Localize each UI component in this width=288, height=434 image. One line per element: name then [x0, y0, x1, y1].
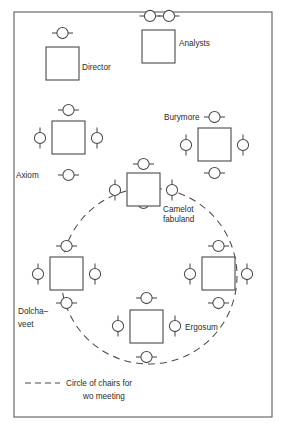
chair-seat-icon — [180, 139, 191, 150]
chair-seat-icon — [237, 139, 248, 150]
legend-label-line1: Circle of chairs for — [66, 379, 132, 388]
chair-seat-icon — [34, 132, 45, 143]
office-floorplan-diagram: DirectorAnalystsAxiomBurymoreCamelotfabu… — [0, 0, 288, 434]
chair-seat-icon — [63, 169, 74, 180]
label-director: Director — [82, 63, 111, 72]
label-axiom: Axiom — [16, 171, 39, 180]
label-camelot-fabuland-line2: fabuland — [163, 215, 195, 224]
chair-seat-icon — [144, 10, 155, 21]
desk-unnamed-right — [202, 257, 235, 290]
chair-seat-icon — [169, 320, 180, 331]
chair-seat-icon — [213, 297, 224, 308]
desk-burymore — [198, 128, 231, 161]
chair-seat-icon — [91, 132, 102, 143]
chair-seat-icon — [184, 268, 195, 279]
label-dolcha-veet-line2: veet — [18, 320, 34, 329]
chair-seat-icon — [138, 158, 149, 169]
label-dolcha-veet: Dolcha– — [18, 307, 48, 316]
chair-seat-icon — [141, 292, 152, 303]
desk-analysts — [142, 30, 175, 63]
desk-axiom — [52, 121, 85, 154]
chair-seat-icon — [109, 184, 120, 195]
chair-seat-icon — [241, 268, 252, 279]
chair-seat-icon — [61, 297, 72, 308]
chair-seat-icon — [163, 10, 174, 21]
chair-seat-icon — [112, 320, 123, 331]
desk-dolcha-veet — [50, 257, 83, 290]
chair-seat-icon — [63, 104, 74, 115]
chair-seat-icon — [209, 167, 220, 178]
chair-seat-icon — [141, 351, 152, 362]
chair-seat-icon — [61, 240, 72, 251]
chair-seat-icon — [209, 111, 220, 122]
label-burymore: Burymore — [164, 113, 200, 122]
chair-seat-icon — [32, 268, 43, 279]
label-ergosum: Ergosum — [185, 323, 218, 332]
desk-director — [46, 47, 79, 80]
desk-ergosum — [130, 310, 163, 343]
chair-seat-icon — [89, 268, 100, 279]
legend-label-line2: wo meeting — [82, 392, 125, 401]
chair-seat-icon — [213, 240, 224, 251]
floorplan-canvas: DirectorAnalystsAxiomBurymoreCamelotfabu… — [0, 0, 288, 434]
chair-seat-icon — [57, 27, 68, 38]
chair-seat-icon — [166, 184, 177, 195]
desk-camelot-fabuland — [127, 173, 160, 206]
label-camelot-fabuland: Camelot — [163, 205, 194, 214]
label-analysts: Analysts — [179, 39, 210, 48]
